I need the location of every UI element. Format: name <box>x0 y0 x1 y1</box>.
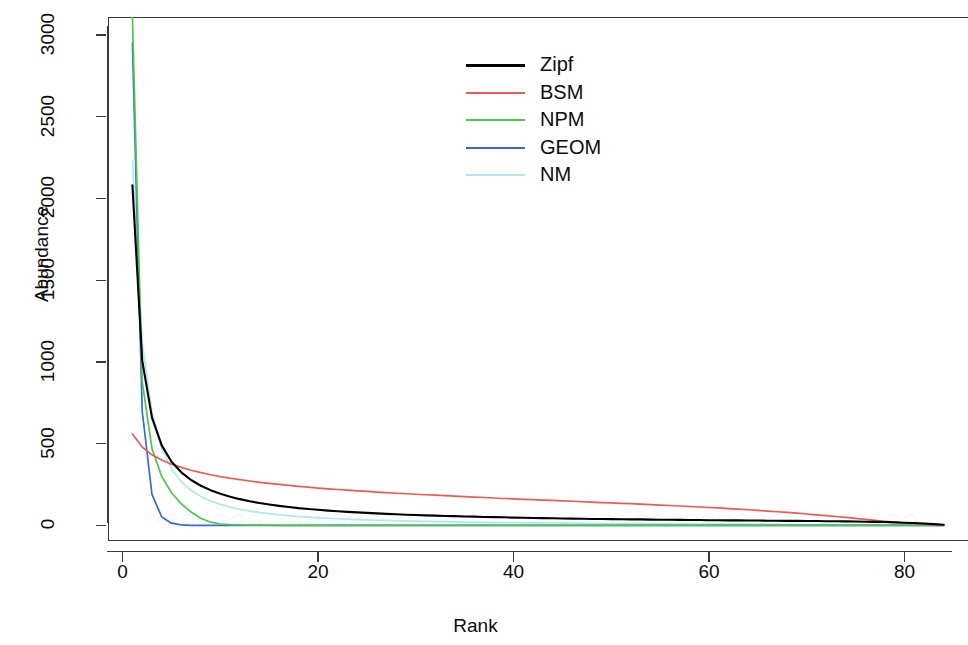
legend-item-nm: NM <box>466 162 676 190</box>
legend-swatch-nm <box>466 174 525 176</box>
legend-swatch-bsm <box>466 92 525 94</box>
y-tick <box>96 525 106 526</box>
y-tick-label: 0 <box>37 489 59 559</box>
x-tick-label: 0 <box>83 561 163 583</box>
legend-label-nm: NM <box>540 162 571 187</box>
series-line-zipf <box>132 185 943 524</box>
y-tick-label: 2500 <box>37 81 59 151</box>
legend-label-geom: GEOM <box>540 135 601 160</box>
x-tick-label: 80 <box>864 561 944 583</box>
legend-item-geom: GEOM <box>466 135 676 163</box>
y-tick <box>96 34 106 35</box>
x-axis-line <box>107 551 952 552</box>
legend-item-bsm: BSM <box>466 80 676 108</box>
x-axis-title: Rank <box>0 615 951 637</box>
legend-swatch-zipf <box>466 64 525 67</box>
y-tick-label: 500 <box>37 408 59 478</box>
y-axis-line <box>107 26 108 523</box>
y-tick-label: 3000 <box>37 0 59 69</box>
y-axis-title: Abundance <box>31 194 53 314</box>
chart-legend: ZipfBSMNPMGEOMNM <box>466 52 676 190</box>
y-tick <box>96 116 106 117</box>
series-line-nm <box>132 161 943 526</box>
legend-label-zipf: Zipf <box>540 52 573 77</box>
y-tick-label: 1000 <box>37 326 59 396</box>
x-tick-label: 40 <box>474 561 554 583</box>
legend-item-npm: NPM <box>466 107 676 135</box>
y-tick <box>96 198 106 199</box>
legend-label-npm: NPM <box>540 107 584 132</box>
legend-swatch-geom <box>466 147 525 149</box>
legend-label-bsm: BSM <box>540 80 583 105</box>
y-tick <box>96 443 106 444</box>
legend-item-zipf: Zipf <box>466 52 676 80</box>
y-tick <box>96 280 106 281</box>
legend-swatch-npm <box>466 119 525 121</box>
y-tick <box>96 361 106 362</box>
x-tick-label: 60 <box>669 561 749 583</box>
x-tick-label: 20 <box>278 561 358 583</box>
